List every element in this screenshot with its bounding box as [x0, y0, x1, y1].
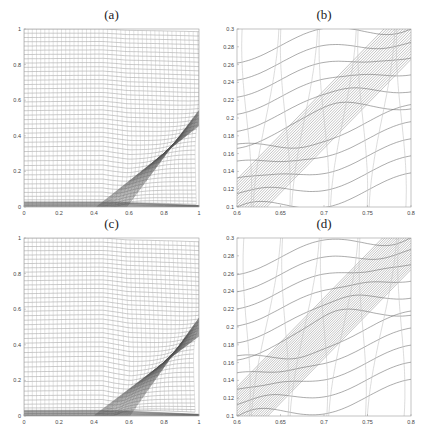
x-tick-label: 0.75	[362, 419, 373, 425]
y-tick-label: 0.16	[223, 360, 234, 366]
y-tick-label: 0.3	[226, 235, 234, 241]
plot-area: 0.60.650.70.750.80.10.120.140.160.180.20…	[0, 0, 428, 441]
y-tick-label: 0.18	[223, 342, 234, 348]
y-tick-label: 0.22	[223, 306, 234, 312]
y-tick-label: 0.14	[223, 377, 234, 383]
x-tick-label: 0.65	[275, 419, 286, 425]
y-tick-label: 0.26	[223, 271, 234, 277]
y-tick-label: 0.28	[223, 253, 234, 259]
y-tick-label: 0.24	[223, 288, 234, 294]
panel-d: (d)0.60.650.70.750.80.10.120.140.160.180…	[0, 0, 428, 441]
y-tick-label: 0.12	[223, 395, 234, 401]
y-tick-label: 0.2	[226, 324, 234, 330]
y-tick-label: 0.1	[226, 413, 234, 419]
x-tick-label: 0.7	[320, 419, 328, 425]
mesh-lines	[237, 209, 411, 441]
x-tick-label: 0.8	[407, 419, 415, 425]
x-tick-label: 0.6	[233, 419, 241, 425]
